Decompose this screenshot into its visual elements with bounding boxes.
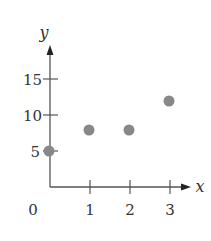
scatter-chart: y x 15 10 5 1 2 3 0 — [0, 0, 211, 241]
x-tick-label-2: 2 — [125, 201, 135, 219]
y-tick-label-5: 5 — [30, 143, 40, 161]
x-tick-label-1: 1 — [85, 201, 95, 219]
origin-label: 0 — [28, 201, 38, 219]
y-tick-label-15: 15 — [23, 71, 42, 89]
x-axis-arrow-icon — [181, 184, 191, 191]
data-point — [164, 96, 175, 107]
y-axis-arrow-icon — [47, 45, 54, 55]
data-point — [84, 125, 95, 136]
y-tick-label-10: 10 — [23, 107, 42, 125]
x-axis-label: x — [195, 177, 204, 196]
data-points — [44, 96, 175, 157]
x-tick-label-3: 3 — [165, 201, 175, 219]
data-point — [124, 125, 135, 136]
y-axis-label: y — [38, 23, 49, 42]
data-point — [44, 146, 55, 157]
